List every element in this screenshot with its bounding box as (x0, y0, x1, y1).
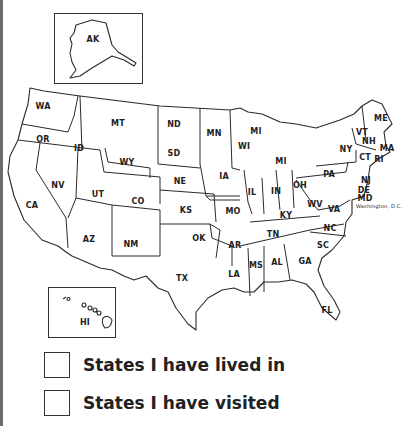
state-label-mi[interactable]: MI (275, 157, 286, 166)
state-label-az[interactable]: AZ (83, 235, 95, 244)
state-label-ga[interactable]: GA (298, 257, 311, 266)
state-label-hi: HI (80, 318, 90, 327)
state-label-nd[interactable]: ND (167, 120, 181, 129)
state-label-pa[interactable]: PA (323, 170, 335, 179)
state-label-nh[interactable]: NH (362, 137, 376, 146)
state-label-oh[interactable]: OH (293, 181, 307, 190)
state-label-nm[interactable]: NM (123, 240, 138, 249)
state-label-wa[interactable]: WA (35, 102, 50, 111)
state-label-mt[interactable]: MT (111, 119, 125, 128)
dc-annotation: Washington, D.C. (356, 203, 402, 209)
state-label-wy[interactable]: WY (119, 158, 134, 167)
state-label-co[interactable]: CO (131, 197, 144, 206)
legend-label-lived: States I have lived in (83, 355, 285, 375)
state-label-wi[interactable]: WI (238, 142, 250, 151)
state-label-ca[interactable]: CA (26, 201, 38, 210)
state-label-ny[interactable]: NY (340, 145, 353, 154)
state-label-ak: AK (87, 35, 100, 44)
legend-lived: States I have lived in (44, 352, 285, 378)
state-label-id[interactable]: ID (74, 144, 84, 153)
state-label-in[interactable]: IN (271, 187, 281, 196)
state-label-ri[interactable]: RI (374, 155, 384, 164)
state-label-tx[interactable]: TX (176, 274, 188, 283)
state-label-mo[interactable]: MO (225, 207, 240, 216)
state-label-or[interactable]: OR (36, 135, 49, 144)
state-label-ky[interactable]: KY (280, 211, 292, 220)
state-label-nc[interactable]: NC (324, 224, 337, 233)
state-label-md[interactable]: MD (357, 194, 372, 203)
state-label-la[interactable]: LA (228, 270, 240, 279)
state-label-sc[interactable]: SC (317, 241, 329, 250)
lived-checkbox[interactable] (44, 352, 70, 378)
legend-label-visited: States I have visited (83, 393, 280, 413)
state-label-ar[interactable]: AR (229, 241, 242, 250)
state-label-ms[interactable]: MS (249, 261, 263, 270)
state-label-mi[interactable]: MI (250, 127, 261, 136)
state-label-il[interactable]: IL (248, 188, 256, 197)
state-label-ut[interactable]: UT (92, 190, 104, 199)
state-label-ks[interactable]: KS (180, 206, 192, 215)
state-label-al[interactable]: AL (271, 258, 283, 267)
state-label-ne[interactable]: NE (174, 177, 187, 186)
state-label-wv[interactable]: WV (307, 200, 322, 209)
state-label-tn[interactable]: TN (267, 230, 280, 239)
state-label-nv[interactable]: NV (51, 181, 64, 190)
state-label-me[interactable]: ME (374, 114, 388, 123)
state-label-ma[interactable]: MA (380, 144, 395, 153)
state-label-ct[interactable]: CT (359, 153, 371, 162)
state-label-va[interactable]: VA (328, 205, 340, 214)
state-label-sd[interactable]: SD (168, 149, 181, 158)
visited-checkbox[interactable] (44, 390, 70, 416)
state-label-vt[interactable]: VT (356, 128, 368, 137)
state-label-mn[interactable]: MN (206, 129, 221, 138)
state-label-ia[interactable]: IA (219, 172, 229, 181)
state-label-ok[interactable]: OK (192, 234, 205, 243)
legend-visited: States I have visited (44, 390, 280, 416)
state-ak (70, 20, 136, 78)
state-label-fl[interactable]: FL (322, 306, 333, 315)
state-label-nj[interactable]: NJ (361, 176, 371, 185)
